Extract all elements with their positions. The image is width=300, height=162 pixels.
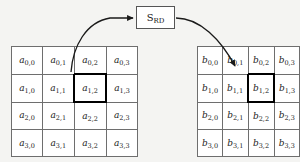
sbox-substitution-diagram: a0,0a0,1a0,2a0,3a1,0a1,1a1,2a1,3a2,0a2,1… [0,0,300,162]
sbox-label: SRD [147,12,165,23]
cell-label: a2,0 [19,111,35,120]
b-cell-0-2[interactable]: b0,2 [248,47,274,75]
sbox-node[interactable]: SRD [136,6,175,29]
b-cell-2-2[interactable]: b2,2 [248,102,274,130]
matrix-row: a0,0a0,1a0,2a0,3 [12,47,138,75]
cell-label: b2,1 [227,111,243,120]
matrix-row: b0,0b0,1b0,2b0,3 [198,47,300,75]
cell-label: b0,0 [202,56,218,65]
a-cell-2-1[interactable]: a2,1 [43,102,75,130]
b-cell-0-1[interactable]: b0,1 [223,47,249,75]
a-cell-0-3[interactable]: a0,3 [106,47,138,75]
b-cell-2-3[interactable]: b2,3 [274,102,300,130]
right-matrix-body: b0,0b0,1b0,2b0,3b1,0b1,1b1,2b1,3b2,0b2,1… [198,47,300,157]
left-matrix-body: a0,0a0,1a0,2a0,3a1,0a1,1a1,2a1,3a2,0a2,1… [12,47,138,157]
a-cell-2-0[interactable]: a2,0 [12,102,43,130]
b-cell-1-3[interactable]: b1,3 [274,74,300,102]
cell-label: b2,0 [202,111,218,120]
b-cell-3-1[interactable]: b3,1 [223,130,249,157]
b-cell-2-0[interactable]: b2,0 [198,102,223,130]
right-state-matrix: b0,0b0,1b0,2b0,3b1,0b1,1b1,2b1,3b2,0b2,1… [197,46,300,157]
b-cell-3-2[interactable]: b3,2 [248,130,274,157]
b-cell-0-0[interactable]: b0,0 [198,47,223,75]
cell-label: a0,0 [19,56,35,65]
a-cell-3-0[interactable]: a3,0 [12,130,43,157]
a-cell-2-2[interactable]: a2,2 [74,102,106,130]
cell-label: a3,2 [82,139,98,148]
cell-label: b1,1 [227,84,243,93]
left-state-matrix: a0,0a0,1a0,2a0,3a1,0a1,1a1,2a1,3a2,0a2,1… [11,46,138,157]
cell-label: a0,3 [114,56,130,65]
cell-label: a1,1 [50,84,66,93]
b-cell-1-0[interactable]: b1,0 [198,74,223,102]
a-cell-1-3[interactable]: a1,3 [106,74,138,102]
a-cell-3-3[interactable]: a3,3 [106,130,138,157]
matrix-row: b2,0b2,1b2,2b2,3 [198,102,300,130]
cell-label: b1,2 [253,84,269,93]
cell-label: b1,0 [202,84,218,93]
matrix-row: b3,0b3,1b3,2b3,3 [198,130,300,157]
a-cell-0-0[interactable]: a0,0 [12,47,43,75]
b-cell-1-2-highlighted[interactable]: b1,2 [248,74,274,102]
a-cell-1-1[interactable]: a1,1 [43,74,75,102]
cell-label: b3,1 [227,139,243,148]
a-cell-1-0[interactable]: a1,0 [12,74,43,102]
cell-label: b1,3 [279,84,295,93]
cell-label: b3,0 [202,139,218,148]
cell-label: a1,2 [82,84,98,93]
a-cell-0-2[interactable]: a0,2 [74,47,106,75]
matrix-row: a1,0a1,1a1,2a1,3 [12,74,138,102]
cell-label: a1,3 [114,84,130,93]
cell-label: a0,1 [50,56,66,65]
b-cell-2-1[interactable]: b2,1 [223,102,249,130]
cell-label: b3,2 [253,139,269,148]
cell-label: a2,1 [50,111,66,120]
cell-label: a1,0 [19,84,35,93]
cell-label: b3,3 [279,139,295,148]
cell-label: b2,2 [253,112,269,121]
a-cell-3-1[interactable]: a3,1 [43,130,75,157]
b-cell-3-0[interactable]: b3,0 [198,130,223,157]
cell-label: a3,1 [50,139,66,148]
cell-label: a3,0 [19,139,35,148]
cell-label: a2,3 [114,111,130,120]
matrix-row: a2,0a2,1a2,2a2,3 [12,102,138,130]
b-cell-3-3[interactable]: b3,3 [274,130,300,157]
matrix-row: b1,0b1,1b1,2b1,3 [198,74,300,102]
cell-label: a2,2 [82,112,98,121]
cell-label: a0,2 [82,56,98,65]
b-cell-0-3[interactable]: b0,3 [274,47,300,75]
a-cell-3-2[interactable]: a3,2 [74,130,106,157]
cell-label: b0,1 [227,56,243,65]
cell-label: b0,2 [253,56,269,65]
a-cell-0-1[interactable]: a0,1 [43,47,75,75]
cell-label: b2,3 [279,111,295,120]
a-cell-2-3[interactable]: a2,3 [106,102,138,130]
cell-label: b0,3 [279,56,295,65]
matrix-row: a3,0a3,1a3,2a3,3 [12,130,138,157]
a-cell-1-2-highlighted[interactable]: a1,2 [74,74,106,102]
b-cell-1-1[interactable]: b1,1 [223,74,249,102]
cell-label: a3,3 [114,139,130,148]
